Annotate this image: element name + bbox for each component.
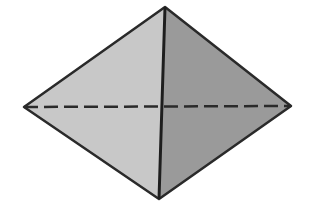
diamond-diagram bbox=[0, 0, 313, 215]
hidden-horizontal-edge bbox=[24, 106, 291, 107]
left-face bbox=[24, 7, 165, 199]
right-face bbox=[159, 7, 291, 199]
